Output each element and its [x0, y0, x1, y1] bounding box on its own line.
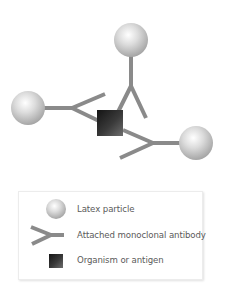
- latex-particle-icon: [46, 199, 66, 219]
- latex-particle-right: [179, 126, 213, 160]
- antigen-icon: [49, 254, 63, 268]
- antigen-square: [97, 110, 123, 136]
- latex-particle-top: [114, 23, 148, 57]
- legend-label-antibody: Attached monoclonal antibody: [77, 230, 206, 240]
- antibody-left: [44, 94, 105, 121]
- legend-label-latex-particle: Latex particle: [77, 204, 134, 214]
- legend: Latex particle Attached monoclonal antib…: [18, 191, 203, 280]
- antibody-right: [120, 130, 180, 158]
- antibody-top: [118, 56, 146, 118]
- antibody-icon: [31, 227, 64, 244]
- latex-particle-left: [11, 91, 45, 125]
- legend-label-antigen: Organism or antigen: [77, 255, 164, 265]
